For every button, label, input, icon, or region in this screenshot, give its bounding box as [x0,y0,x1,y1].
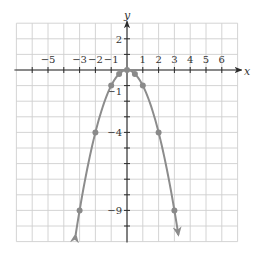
x-tick-label: −3 [72,54,87,65]
data-point [171,207,177,213]
x-tick-label: −5 [41,54,56,65]
data-point [92,129,98,135]
data-point [108,83,114,89]
data-point [77,207,83,213]
data-point [156,129,162,135]
y-tick-label: −4 [107,127,122,138]
x-tick-label: 3 [171,54,177,65]
y-tick-label: 2 [116,34,122,45]
data-point [132,71,138,77]
x-tick-label: 1 [140,54,146,65]
y-axis-label: y [123,9,131,22]
x-tick-label: 6 [219,54,225,65]
data-point [116,71,122,77]
x-tick-label: 5 [203,54,209,65]
x-tick-label: 4 [187,54,193,65]
data-point [124,67,130,73]
x-tick-label: −1 [104,54,119,65]
x-tick-label: −2 [88,54,103,65]
data-point [140,83,146,89]
tick-labels: −5−3−2−11234562−1−4−9 [41,34,225,217]
y-tick-label: −9 [107,205,122,216]
x-tick-label: 2 [155,54,161,65]
x-axis-label: x [244,65,251,78]
parabola-graph: −5−3−2−11234562−1−4−9 x y [0,0,260,253]
